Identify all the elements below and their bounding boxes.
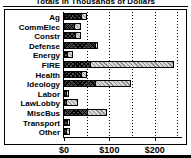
gridline-100	[109, 12, 110, 138]
bar-segment-a	[64, 42, 96, 49]
x-axis-line	[63, 137, 182, 138]
gridline-200	[155, 12, 156, 138]
bar-segment-a	[64, 71, 82, 78]
bar-segment-b	[75, 32, 81, 39]
x-tick-label-0: $0	[59, 145, 69, 155]
bar-segment-b	[67, 119, 70, 126]
bar-segment-a	[64, 13, 82, 20]
bar-segment-b	[81, 71, 86, 78]
bar-segment-b	[87, 109, 107, 116]
bar-segment-b	[95, 80, 131, 87]
gridline-150	[132, 12, 133, 138]
bar-segment-b	[66, 99, 78, 106]
category-label-lawlobby: LawLobby	[20, 99, 60, 108]
bar-segment-b	[95, 42, 99, 49]
bar-segment-b	[81, 13, 86, 20]
category-label-transport: Transport	[23, 119, 60, 128]
bar-segment-b	[90, 61, 174, 68]
category-label-health: Health	[36, 71, 60, 80]
category-label-energy: Energy	[33, 51, 60, 60]
x-tick-1	[109, 138, 110, 141]
category-label-miscbus: MiscBus	[27, 109, 60, 118]
bar-segment-b	[67, 51, 73, 58]
category-label-ideology: Ideology	[27, 80, 60, 89]
category-label-labor: Labor	[38, 90, 60, 99]
category-label-ag: Ag	[49, 13, 60, 22]
category-axis-labels: AgCommElecConstrDefenseEnergyFIREHealthI…	[4, 10, 62, 136]
plot-area	[64, 12, 182, 138]
gridline-250	[177, 12, 178, 138]
category-label-other: Other	[39, 128, 60, 137]
category-label-commelec: CommElec	[19, 23, 60, 32]
category-label-constr: Constr	[34, 32, 60, 41]
gridline-50	[87, 12, 88, 138]
bar-segment-a	[64, 61, 91, 68]
category-label-fire: FIRE	[42, 61, 60, 70]
x-tick-label-2: $200	[145, 145, 165, 155]
bar-segment-b	[66, 90, 69, 97]
bar-segment-a	[64, 109, 88, 116]
x-tick-label-1: $100	[99, 145, 119, 155]
bar-segment-b	[74, 23, 81, 30]
x-tick-2	[155, 138, 156, 141]
bottom-divider	[0, 155, 191, 158]
chart-screenshot: Totals in Thousands of Dollars AgCommEle…	[0, 0, 191, 158]
bar-segment-a	[64, 80, 96, 87]
category-label-defense: Defense	[29, 42, 60, 51]
bar-segment-b	[66, 128, 70, 135]
title-divider	[3, 6, 188, 7]
x-tick-0	[64, 138, 65, 141]
